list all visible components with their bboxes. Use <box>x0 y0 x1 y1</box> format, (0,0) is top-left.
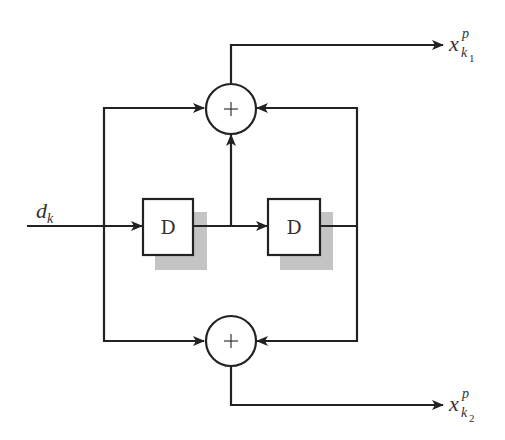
svg-text:p: p <box>461 26 469 41</box>
output-2-label: x p k 2 <box>448 386 475 424</box>
delay-2-label: D <box>286 216 301 238</box>
output-1-wire <box>231 45 443 83</box>
svg-text:k: k <box>461 405 468 420</box>
convolutional-encoder-diagram: D D dk x p k 1 x p k 2 <box>0 0 505 440</box>
input-label: dk <box>36 198 54 226</box>
bottom-adder <box>206 316 256 366</box>
svg-text:p: p <box>461 386 469 401</box>
svg-text:2: 2 <box>469 412 475 424</box>
top-adder <box>206 84 256 134</box>
delay-element-1: D <box>143 199 193 255</box>
svg-text:x: x <box>448 391 459 416</box>
output-1-label: x p k 1 <box>448 26 475 64</box>
delay-1-label: D <box>160 216 175 238</box>
delay-element-2: D <box>268 199 320 255</box>
output-2-wire <box>231 367 443 405</box>
svg-text:1: 1 <box>469 52 475 64</box>
svg-text:x: x <box>448 31 459 56</box>
svg-text:k: k <box>461 45 468 60</box>
